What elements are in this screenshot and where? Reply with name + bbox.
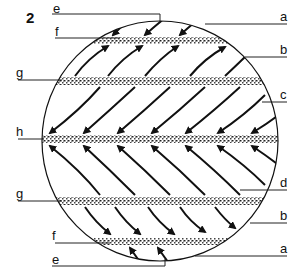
label-e-bottom: e bbox=[52, 253, 59, 266]
label-a-top: a bbox=[280, 10, 287, 23]
label-b-bottom: b bbox=[280, 209, 287, 222]
band-south-polar bbox=[30, 238, 290, 245]
label-b-top: b bbox=[280, 43, 287, 56]
label-f-bottom: f bbox=[52, 229, 56, 242]
label-h: h bbox=[16, 125, 23, 138]
figure-number: 2 bbox=[26, 10, 34, 25]
label-g-top: g bbox=[16, 66, 23, 79]
band-south-mid bbox=[30, 197, 290, 205]
band-equator bbox=[30, 135, 290, 143]
label-f-top: f bbox=[55, 25, 59, 38]
pressure-bands bbox=[30, 37, 290, 245]
label-e-top: e bbox=[53, 2, 60, 15]
label-g-bottom: g bbox=[16, 187, 23, 200]
band-north-mid bbox=[30, 77, 290, 85]
label-a-bottom: a bbox=[280, 242, 287, 255]
globe-diagram bbox=[0, 0, 296, 280]
label-c: c bbox=[280, 88, 287, 101]
label-d: d bbox=[280, 176, 287, 189]
